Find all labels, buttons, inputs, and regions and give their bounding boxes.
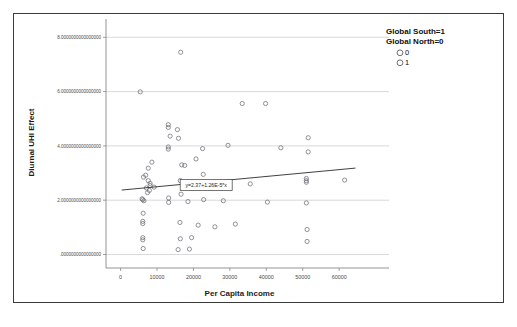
data-point[interactable] [202,198,206,202]
y-tick-labels-group: .00000000000000002.00000000000000004.000… [57,35,106,257]
data-point[interactable] [194,157,198,161]
equation-text: y=2.37+1.26E-5*x [185,182,227,188]
data-point[interactable] [226,143,230,147]
legend-label-0: 0 [405,48,409,57]
data-point[interactable] [183,163,187,167]
data-point[interactable] [167,200,171,204]
svg-text:50000: 50000 [295,274,310,280]
legend-title-line1: Global South=1 [386,27,445,36]
data-point[interactable] [178,220,182,224]
data-point[interactable] [240,101,244,105]
x-tick-labels-group: 0100002000030000400005000060000 [119,268,347,280]
data-point[interactable] [248,182,252,186]
data-point[interactable] [187,247,191,251]
svg-text:4.0000000000000000: 4.0000000000000000 [57,144,101,149]
data-point[interactable] [179,192,183,196]
data-point[interactable] [306,136,310,140]
data-point[interactable] [141,246,145,250]
svg-text:30000: 30000 [222,274,237,280]
legend-marker-1 [397,60,403,66]
data-point[interactable] [196,223,200,227]
data-point[interactable] [304,201,308,205]
legend: Global South=1Global North=001 [386,27,445,67]
data-point[interactable] [221,199,225,203]
legend-marker-0 [397,50,403,56]
svg-text:40000: 40000 [259,274,274,280]
chart-figure-frame: .00000000000000002.00000000000000004.000… [13,13,504,303]
data-point[interactable] [167,196,171,200]
data-point[interactable] [178,237,182,241]
data-point[interactable] [279,146,283,150]
svg-text:6.0000000000000000: 6.0000000000000000 [57,89,101,94]
data-point[interactable] [200,147,204,151]
svg-text:20000: 20000 [186,274,201,280]
svg-text:10000: 10000 [150,274,165,280]
data-point[interactable] [150,160,154,164]
legend-title-line2: Global North=0 [386,37,444,46]
data-point[interactable] [201,172,205,176]
regression-line [122,168,356,190]
svg-text:2.0000000000000000: 2.0000000000000000 [57,198,101,203]
legend-label-1: 1 [405,58,409,67]
data-point[interactable] [179,50,183,54]
svg-text:8.0000000000000000: 8.0000000000000000 [57,35,101,40]
data-point[interactable] [175,128,179,132]
svg-text:60000: 60000 [332,274,347,280]
x-axis-title: Per Capita Income [205,289,275,298]
gridlines-group [106,37,389,254]
data-point[interactable] [146,166,150,170]
data-point[interactable] [263,101,267,105]
data-point[interactable] [306,150,310,154]
scatter-plot[interactable]: .00000000000000002.00000000000000004.000… [14,14,502,301]
data-point[interactable] [166,125,170,129]
svg-text:.0000000000000000: .0000000000000000 [60,252,102,257]
data-point[interactable] [305,227,309,231]
equation-annotation: y=2.37+1.26E-5*x [180,179,232,190]
data-point[interactable] [190,236,194,240]
data-point[interactable] [168,134,172,138]
data-point[interactable] [180,163,184,167]
data-points-group[interactable] [138,50,347,252]
data-point[interactable] [141,211,145,215]
data-point[interactable] [265,200,269,204]
data-point[interactable] [305,239,309,243]
data-point[interactable] [343,178,347,182]
axes-group [106,19,389,268]
y-axis-title: Diurnal UHI Effect [27,108,36,176]
data-point[interactable] [176,248,180,252]
data-point[interactable] [233,222,237,226]
svg-text:0: 0 [119,274,122,280]
data-point[interactable] [213,225,217,229]
data-point[interactable] [176,136,180,140]
